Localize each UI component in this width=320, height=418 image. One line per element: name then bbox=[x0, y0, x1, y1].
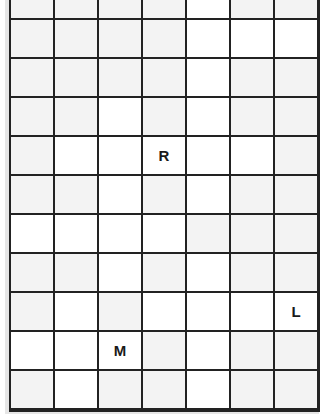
grid-cell[interactable] bbox=[99, 254, 143, 293]
grid-cell[interactable] bbox=[275, 332, 319, 371]
grid-cell[interactable] bbox=[99, 176, 143, 215]
grid-cell[interactable] bbox=[99, 215, 143, 254]
grid-cell[interactable] bbox=[275, 20, 319, 59]
grid-cell[interactable] bbox=[55, 137, 99, 176]
grid-cell[interactable] bbox=[11, 176, 55, 215]
grid-cell[interactable] bbox=[143, 371, 187, 410]
grid-cell[interactable] bbox=[11, 293, 55, 332]
grid-cell[interactable] bbox=[11, 137, 55, 176]
grid-cell[interactable] bbox=[143, 293, 187, 332]
grid-cell[interactable] bbox=[275, 59, 319, 98]
grid-cell[interactable]: M bbox=[99, 332, 143, 371]
grid-cell[interactable] bbox=[55, 20, 99, 59]
grid-cell[interactable]: R bbox=[143, 137, 187, 176]
grid-cell[interactable] bbox=[11, 59, 55, 98]
grid-cell[interactable] bbox=[143, 20, 187, 59]
cell-letter: M bbox=[114, 342, 127, 359]
grid-cell[interactable] bbox=[55, 215, 99, 254]
grid-cell[interactable] bbox=[275, 0, 319, 20]
grid-cell[interactable] bbox=[231, 137, 275, 176]
grid-cell[interactable] bbox=[231, 59, 275, 98]
grid-cell[interactable] bbox=[143, 332, 187, 371]
game-board: RLM bbox=[9, 0, 320, 412]
grid-cell[interactable] bbox=[187, 98, 231, 137]
cell-letter: L bbox=[291, 303, 300, 320]
grid-cell[interactable] bbox=[187, 293, 231, 332]
grid-cell[interactable] bbox=[99, 293, 143, 332]
grid-cell[interactable] bbox=[143, 0, 187, 20]
grid-cell[interactable] bbox=[11, 0, 55, 20]
grid-cell[interactable] bbox=[187, 215, 231, 254]
grid-cell[interactable] bbox=[99, 137, 143, 176]
grid-cell[interactable] bbox=[99, 20, 143, 59]
grid-cell[interactable] bbox=[55, 0, 99, 20]
grid-cell[interactable] bbox=[187, 332, 231, 371]
grid-cell[interactable] bbox=[275, 176, 319, 215]
grid-cell[interactable] bbox=[55, 176, 99, 215]
grid-cell[interactable] bbox=[55, 254, 99, 293]
grid-cell[interactable] bbox=[143, 254, 187, 293]
grid-cell[interactable] bbox=[55, 59, 99, 98]
grid-cell[interactable] bbox=[231, 176, 275, 215]
grid-cell[interactable] bbox=[55, 332, 99, 371]
grid-cell[interactable] bbox=[11, 215, 55, 254]
grid-cell[interactable] bbox=[187, 371, 231, 410]
grid-cell[interactable] bbox=[99, 98, 143, 137]
grid-cell[interactable] bbox=[187, 59, 231, 98]
grid-cell[interactable] bbox=[187, 176, 231, 215]
grid-cell[interactable] bbox=[231, 254, 275, 293]
grid-cell[interactable] bbox=[187, 20, 231, 59]
grid-cell[interactable] bbox=[11, 254, 55, 293]
grid-cell[interactable] bbox=[187, 137, 231, 176]
grid-cell[interactable] bbox=[11, 332, 55, 371]
grid-cell[interactable] bbox=[231, 215, 275, 254]
grid-cell[interactable] bbox=[231, 293, 275, 332]
grid-cell[interactable] bbox=[143, 59, 187, 98]
grid-cell[interactable] bbox=[275, 98, 319, 137]
grid-cell[interactable] bbox=[275, 254, 319, 293]
grid-cell[interactable] bbox=[55, 293, 99, 332]
grid-cell[interactable] bbox=[55, 98, 99, 137]
grid-cell[interactable] bbox=[231, 371, 275, 410]
grid-cell[interactable] bbox=[99, 0, 143, 20]
grid-cell[interactable] bbox=[11, 20, 55, 59]
grid-cell[interactable] bbox=[55, 371, 99, 410]
grid-cell[interactable] bbox=[143, 215, 187, 254]
grid-cell[interactable] bbox=[231, 332, 275, 371]
grid-cell[interactable] bbox=[231, 98, 275, 137]
grid-cell[interactable] bbox=[275, 215, 319, 254]
grid-cell[interactable] bbox=[143, 176, 187, 215]
grid-cell[interactable] bbox=[99, 59, 143, 98]
grid-cell[interactable] bbox=[231, 20, 275, 59]
grid-cell[interactable] bbox=[187, 0, 231, 20]
grid-cell[interactable] bbox=[231, 0, 275, 20]
grid-cell[interactable] bbox=[187, 254, 231, 293]
grid-cell[interactable] bbox=[11, 98, 55, 137]
grid-cell[interactable] bbox=[275, 371, 319, 410]
grid-cell[interactable] bbox=[275, 137, 319, 176]
grid-cell[interactable] bbox=[99, 371, 143, 410]
grid-cell[interactable] bbox=[143, 98, 187, 137]
grid-cell[interactable] bbox=[11, 371, 55, 410]
grid-cell[interactable]: L bbox=[275, 293, 319, 332]
cell-letter: R bbox=[159, 147, 170, 164]
